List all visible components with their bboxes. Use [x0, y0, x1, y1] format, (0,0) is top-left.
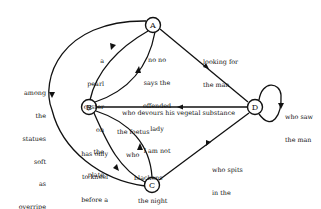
- label-a-to-c-outer: among the statues soft as overripe fruit…: [14, 75, 46, 209]
- arrow-icon: [206, 140, 211, 146]
- svg-text:A: A: [149, 21, 156, 30]
- node-a: A: [146, 18, 161, 33]
- arrow-icon: [49, 92, 55, 98]
- label-a-to-d: looking for the man: [203, 44, 253, 97]
- label-b-to-c: has only to kneel before a caterpillar: [62, 136, 108, 209]
- svg-text:D: D: [252, 103, 258, 112]
- arrow-icon: [278, 103, 284, 109]
- arrow-icon: [110, 43, 116, 50]
- label-d-to-d: who saw the man: [285, 99, 321, 152]
- label-d-to-c: who spits in the pitcher: [212, 152, 262, 209]
- label-c-to-b: the foetus who blackens the night: [117, 114, 187, 209]
